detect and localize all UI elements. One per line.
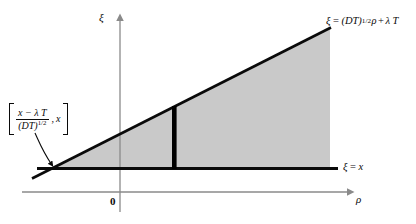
denominator-base: (DT): [18, 120, 37, 131]
upper-eq-plus: +: [378, 16, 384, 27]
coordinate-comma: ,: [52, 113, 55, 124]
bracket-right-icon: [63, 103, 68, 135]
fraction-denominator: (DT)1/2: [16, 120, 48, 132]
upper-eq-lhs: ξ: [326, 16, 331, 27]
lower-eq-equals: =: [350, 162, 356, 173]
lower-eq-lhs: ξ: [343, 162, 348, 173]
upper-eq-factor: (DT): [341, 16, 361, 27]
intersection-point-label: x − λ T(DT)1/2,x: [9, 103, 68, 135]
figure-container: ξ ρ 0 ξ = (DT) 1/2 ρ + λ T ξ = x x − λ T…: [0, 0, 416, 224]
origin-label: 0: [110, 196, 116, 207]
xi-axis-label: ξ: [99, 12, 104, 23]
fraction-numerator: x − λ T: [16, 107, 49, 120]
lower-eq-rhs: x: [358, 162, 363, 173]
leader-arrow: [35, 133, 52, 165]
upper-boundary-equation: ξ = (DT) 1/2 ρ + λ T: [326, 16, 398, 27]
upper-eq-equals: =: [333, 16, 339, 27]
denominator-exponent: 1/2: [38, 119, 47, 126]
coordinate-fraction: x − λ T(DT)1/2: [16, 107, 49, 131]
upper-eq-term: λ T: [385, 16, 398, 27]
vertical-strip-marker: [172, 106, 177, 169]
lower-boundary-equation: ξ = x: [343, 162, 363, 173]
rho-axis-label: ρ: [356, 194, 361, 205]
second-coordinate: x: [56, 113, 60, 124]
upper-eq-variable: ρ: [371, 16, 376, 27]
bracket-left-icon: [9, 103, 14, 135]
